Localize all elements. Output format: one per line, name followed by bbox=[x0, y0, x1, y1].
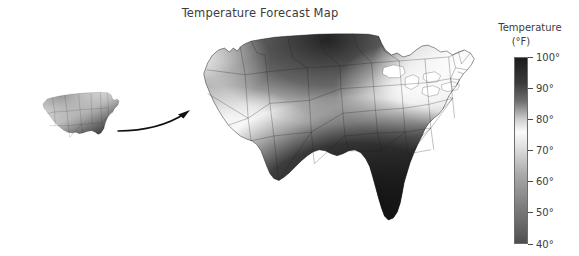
legend-tick-mark bbox=[528, 212, 533, 213]
arrow-shaft bbox=[118, 113, 186, 131]
main-temperature-map bbox=[182, 26, 498, 240]
temperature-gradient-fill bbox=[182, 26, 498, 239]
legend-tick-mark bbox=[528, 119, 533, 120]
legend-tick-list: 100°90°80°70°60°50°40° bbox=[528, 57, 578, 244]
inset-map-svg bbox=[36, 88, 124, 146]
legend-tick-label: 60° bbox=[536, 175, 554, 188]
legend: Temperature (°F) 100°90°80°70°60°50°40° bbox=[486, 22, 579, 252]
legend-units: (°F) bbox=[486, 36, 556, 47]
legend-tick-label: 50° bbox=[536, 206, 554, 219]
legend-tick-label: 100° bbox=[536, 51, 560, 64]
inset-map-fill bbox=[37, 88, 124, 146]
legend-tick-mark bbox=[528, 244, 533, 245]
main-map-svg bbox=[182, 26, 498, 240]
legend-tick-mark bbox=[528, 57, 533, 58]
legend-tick-label: 80° bbox=[536, 113, 554, 126]
inset-map bbox=[36, 88, 124, 146]
figure-canvas: Temperature Forecast Map bbox=[0, 0, 579, 256]
legend-tick-mark bbox=[528, 150, 533, 151]
legend-tick-label: 70° bbox=[536, 144, 554, 157]
legend-tick-label: 90° bbox=[536, 82, 554, 95]
legend-tick-mark bbox=[528, 88, 533, 89]
legend-colorbar bbox=[514, 57, 528, 244]
legend-tick-mark bbox=[528, 181, 533, 182]
legend-tick-label: 40° bbox=[536, 238, 554, 251]
legend-title: Temperature bbox=[486, 22, 574, 33]
page-title: Temperature Forecast Map bbox=[0, 6, 520, 20]
